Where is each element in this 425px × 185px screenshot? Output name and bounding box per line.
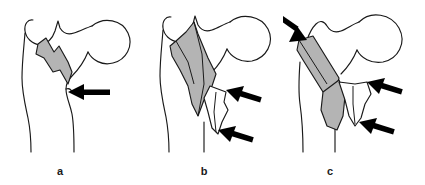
femoral-head-outline xyxy=(88,20,130,63)
arrow-upper-left-b xyxy=(226,86,262,102)
panel-a-illustration xyxy=(0,0,142,160)
panel-b xyxy=(142,0,284,160)
lateral-shaft-line xyxy=(160,30,169,152)
panel-a xyxy=(0,0,142,160)
arrow-left xyxy=(68,84,110,100)
medial-neck-line xyxy=(212,49,227,72)
panel-b-label: b xyxy=(133,164,275,178)
panel-c-illustration xyxy=(283,0,425,160)
panel-c xyxy=(283,0,425,160)
fracture-fragment-shaded xyxy=(36,38,72,84)
femoral-neck-upper-outline xyxy=(307,22,359,40)
panel-b-illustration xyxy=(142,0,284,160)
femoral-head-outline xyxy=(357,15,402,62)
femoral-head-outline xyxy=(227,16,270,61)
lateral-shaft-line xyxy=(299,62,303,152)
arrow-top-down-right-c xyxy=(283,14,307,42)
medial-neck-line xyxy=(341,50,357,74)
panel-a-label: a xyxy=(0,164,131,178)
lateral-shaft-line xyxy=(22,33,31,152)
greater-trochanter-outline xyxy=(25,20,40,45)
arrow-lower-left-c xyxy=(359,118,395,134)
figure-container: a xyxy=(0,0,425,185)
panel-c-label: c xyxy=(259,164,401,178)
arrow-middle-left-c xyxy=(367,78,403,94)
arrow-lower-left-b xyxy=(218,126,254,142)
greater-trochanter-outline xyxy=(163,17,178,42)
